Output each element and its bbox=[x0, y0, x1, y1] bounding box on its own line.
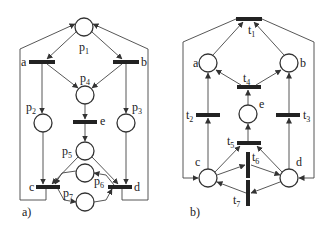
label-c: c bbox=[195, 155, 200, 169]
label-t4: t4 bbox=[243, 71, 250, 87]
label-a: a bbox=[193, 56, 199, 70]
label-p2: p2 bbox=[26, 100, 36, 116]
place-e bbox=[239, 105, 257, 123]
label-t5: t5 bbox=[227, 134, 234, 150]
label-p7: p7 bbox=[63, 186, 73, 202]
place-c bbox=[199, 169, 217, 187]
label-d: d bbox=[296, 155, 302, 169]
transition-t2 bbox=[196, 113, 220, 117]
place-p7 bbox=[76, 193, 94, 211]
label-b: b bbox=[300, 56, 306, 70]
transition-t3 bbox=[276, 113, 300, 117]
transition-e bbox=[73, 120, 97, 124]
transition-t1 bbox=[236, 17, 262, 21]
transition-b bbox=[113, 60, 139, 64]
transition-t6 bbox=[246, 152, 250, 178]
label-t7: t7 bbox=[233, 193, 240, 209]
label-p3: p3 bbox=[132, 100, 142, 116]
transition-a bbox=[29, 60, 55, 64]
place-p6 bbox=[76, 164, 94, 182]
transition-t7 bbox=[246, 180, 250, 206]
place-a bbox=[199, 54, 217, 72]
label-e: e bbox=[100, 114, 105, 128]
transition-d bbox=[108, 185, 132, 189]
label-a: a bbox=[21, 55, 27, 69]
label-p4: p4 bbox=[80, 71, 90, 87]
caption-b: b) bbox=[190, 205, 200, 219]
panel-b bbox=[183, 17, 314, 206]
label-b: b bbox=[141, 55, 147, 69]
label-t1: t1 bbox=[248, 23, 255, 39]
label-t6: t6 bbox=[252, 150, 259, 166]
place-p5 bbox=[76, 142, 94, 160]
label-t2: t2 bbox=[186, 108, 193, 124]
label-p6: p6 bbox=[94, 174, 104, 190]
label-p1: p1 bbox=[79, 40, 89, 56]
label-c: c bbox=[29, 180, 34, 194]
place-d bbox=[280, 169, 298, 187]
label-t3: t3 bbox=[303, 108, 310, 124]
place-p1 bbox=[75, 18, 93, 36]
transition-t5 bbox=[237, 141, 261, 145]
place-b bbox=[280, 54, 298, 72]
label-d: d bbox=[134, 180, 140, 194]
place-p2 bbox=[34, 114, 52, 132]
petri-net-figure: p1 a b p4 p2 p3 e p5 p6 c d p7 a) t1 a b… bbox=[0, 0, 333, 228]
place-p3 bbox=[117, 114, 135, 132]
label-e: e bbox=[259, 97, 264, 111]
transition-c bbox=[36, 185, 60, 189]
label-p5: p5 bbox=[62, 144, 72, 160]
caption-a: a) bbox=[22, 205, 31, 219]
place-p4 bbox=[76, 86, 94, 104]
